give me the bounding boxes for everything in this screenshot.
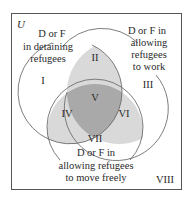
svg-text:D or F in: D or F in (128, 25, 167, 36)
svg-text:allowing refugees: allowing refugees (59, 160, 134, 171)
region-iii-label: III (143, 79, 154, 90)
universe-label: U (17, 18, 26, 30)
region-v-label: V (91, 92, 99, 103)
region-iv-label: IV (61, 108, 72, 119)
region-ii-label: II (92, 52, 99, 63)
svg-text:in detaining: in detaining (23, 41, 74, 52)
svg-text:D or F: D or F (38, 28, 66, 39)
svg-text:refugees: refugees (30, 53, 66, 64)
svg-text:allowing: allowing (131, 37, 168, 48)
svg-text:to move freely: to move freely (65, 172, 127, 183)
region-viii-label: VIII (156, 174, 175, 185)
svg-text:refugees: refugees (131, 49, 167, 60)
region-vi-label: VI (118, 108, 130, 119)
region-vii-label: VII (88, 133, 103, 144)
svg-text:to work: to work (133, 61, 166, 72)
svg-text:D or F in: D or F in (77, 147, 116, 158)
region-i-label: I (41, 75, 45, 86)
set-work-label: D or F in allowing refugees to work (128, 25, 168, 72)
venn-diagram: U D or F in detaining refugees D or F in… (0, 0, 189, 198)
